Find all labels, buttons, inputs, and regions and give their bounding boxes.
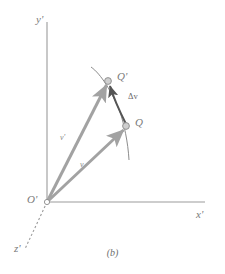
figure-caption: (b)	[0, 248, 225, 258]
vector-v	[47, 130, 124, 202]
vector-delta-v	[110, 86, 126, 124]
point-marker-origin	[44, 199, 49, 204]
y-axis-label: y'	[36, 14, 43, 25]
x-axis-label: x'	[196, 209, 203, 220]
z-axis-line	[25, 202, 47, 249]
vector-label-v-prime: v'	[60, 134, 65, 142]
point-label-q-prime: Q'	[117, 71, 127, 82]
figure-container: y' x' z' O' Q' Q v' v Δv (b)	[0, 0, 225, 274]
vector-label-delta-v: Δv	[128, 92, 138, 101]
origin-label: O'	[27, 194, 37, 205]
point-marker-q	[123, 123, 130, 130]
point-marker-q-prime	[105, 78, 112, 85]
vector-diagram-canvas	[0, 0, 225, 274]
vector-label-v: v	[80, 161, 84, 169]
vector-v-prime	[47, 85, 107, 202]
point-label-q: Q	[135, 117, 143, 128]
